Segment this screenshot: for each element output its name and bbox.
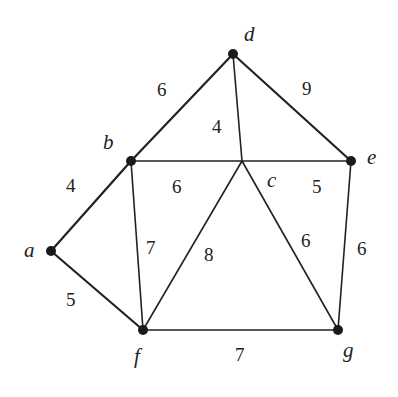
edge-c-g — [242, 161, 338, 330]
edge-weight-f-g: 7 — [235, 344, 245, 365]
edge-weight-d-e: 9 — [302, 78, 312, 99]
vertex-e — [346, 156, 356, 166]
graph-svg: 456674958667 abcdefg — [0, 0, 398, 397]
graph-diagram: 456674958667 abcdefg — [0, 0, 398, 397]
edge-d-e — [233, 54, 351, 161]
edge-a-f — [51, 251, 143, 330]
edge-weight-b-d: 6 — [157, 79, 167, 100]
vertex-label-c: c — [267, 168, 277, 192]
edge-b-f — [131, 161, 143, 330]
vertex-g — [333, 325, 343, 335]
vertex-label-e: e — [367, 145, 376, 169]
edge-weight-b-c: 6 — [172, 176, 182, 197]
vertex-d — [228, 49, 238, 59]
edge-weight-a-b: 4 — [66, 175, 76, 196]
vertex-label-a: a — [24, 238, 35, 262]
edge-weight-d-c: 4 — [212, 116, 222, 137]
edge-d-c — [233, 54, 242, 161]
edge-weight-a-f: 5 — [66, 289, 76, 310]
edge-a-b — [51, 161, 131, 251]
vertex-label-g: g — [343, 338, 354, 362]
edge-weight-c-g: 6 — [301, 230, 311, 251]
edge-b-d — [131, 54, 233, 161]
vertex-label-b: b — [103, 130, 114, 154]
vertex-f — [138, 325, 148, 335]
edge-weight-e-g: 6 — [357, 238, 367, 259]
vertex-labels-layer: abcdefg — [24, 22, 376, 368]
weights-layer: 456674958667 — [66, 78, 367, 365]
vertex-b — [126, 156, 136, 166]
vertex-a — [46, 246, 56, 256]
edge-weight-c-e: 5 — [312, 176, 322, 197]
edge-e-g — [338, 161, 351, 330]
vertex-label-f: f — [134, 344, 143, 368]
vertex-label-d: d — [244, 22, 255, 46]
edge-c-f — [143, 161, 242, 330]
edge-weight-c-f: 8 — [204, 244, 214, 265]
edge-weight-b-f: 7 — [146, 237, 156, 258]
